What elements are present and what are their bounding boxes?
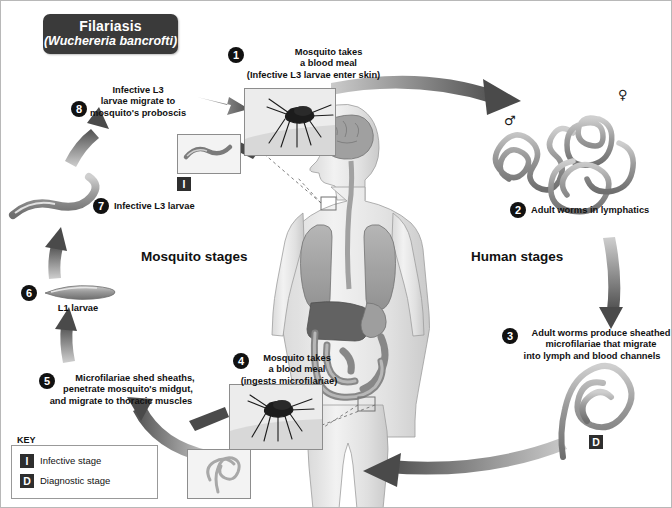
step-5-line-2: penetrate mosquito's midgut, (31, 384, 211, 395)
mosquito-stages-label: Mosquito stages (141, 249, 248, 264)
step-8-line-2: larvae migrate to (61, 96, 191, 107)
inset-l3-larvae (177, 134, 241, 174)
step-3-caption: Adult worms produce sheathed microfilari… (511, 328, 672, 362)
step-7-caption: Infective L3 larvae (114, 201, 195, 212)
step-3-line-3: into lymph and blood channels (511, 351, 672, 362)
disease-name: Filariasis (43, 14, 178, 34)
step-5-caption: Microfilariae shed sheaths, penetrate mo… (31, 373, 211, 407)
key-row-diagnostic: DDiagnostic stage (20, 473, 110, 489)
mosquito-photo-art (245, 89, 335, 155)
key-box: IInfective stage DDiagnostic stage (11, 445, 158, 499)
inset-mosquito-bite-infective (244, 88, 336, 156)
step-4-line-3: (ingests microfilariae) (217, 376, 347, 387)
step-4-caption: Mosquito takes a blood meal (ingests mic… (217, 353, 347, 387)
step-8-caption: Infective L3 larvae migrate to mosquito'… (61, 85, 191, 119)
key-infective-badge: I (20, 454, 34, 468)
human-stages-label: Human stages (471, 249, 563, 264)
l1-larva (45, 286, 115, 300)
step-8-line-3: mosquito's proboscis (61, 108, 191, 119)
step-6-line-1: L1 larvae (41, 303, 115, 314)
step-8-line-1: Infective L3 (61, 85, 191, 96)
inset-microfilaria (187, 449, 251, 499)
adult-worms (495, 118, 633, 212)
step-2-caption: Adult worms in lymphatics (531, 205, 649, 216)
diagnostic-stage-badge: D (589, 435, 603, 449)
mosquito-photo-art-2 (230, 385, 322, 449)
key-row-infective: IInfective stage (20, 453, 101, 469)
infective-stage-badge: I (177, 177, 191, 191)
key-infective-label: Infective stage (40, 455, 101, 466)
step-4-line-1: Mosquito takes (217, 353, 347, 364)
step-7-line-1: Infective L3 larvae (114, 201, 195, 212)
step-6-number: 6 (21, 285, 37, 301)
title-banner: Filariasis (Wuchereria bancrofti) (43, 14, 178, 54)
male-symbol: ♂ (504, 113, 516, 128)
l3-larvae-art (178, 135, 240, 173)
key-diagnostic-badge: D (20, 474, 34, 488)
step-7-number: 7 (93, 198, 109, 214)
step-3-line-2: microfilariae that migrate (511, 339, 672, 350)
step-1-line-2: a blood meal (201, 58, 426, 69)
l3-larva-large (13, 177, 96, 215)
step-1-line-1: Mosquito takes (201, 47, 426, 58)
life-cycle-diagram: Filariasis (Wuchereria bancrofti) (0, 0, 672, 508)
key-diagnostic-label: Diagnostic stage (40, 475, 110, 486)
step-1-line-3: (Infective L3 larvae enter skin) (201, 70, 426, 81)
species-name: (Wuchereria bancrofti) (43, 34, 178, 49)
microfilaria-art (188, 450, 250, 498)
female-symbol: ♀ (618, 87, 628, 102)
step-2-line-1: Adult worms in lymphatics (531, 205, 649, 216)
step-4-line-2: a blood meal (217, 364, 347, 375)
key-title: KEY (15, 435, 38, 445)
step-3-line-1: Adult worms produce sheathed (511, 328, 672, 339)
inset-mosquito-bite-ingest (229, 384, 323, 450)
step-5-line-3: and migrate to thoracic muscles (31, 396, 211, 407)
step-1-caption: Mosquito takes a blood meal (Infective L… (201, 47, 426, 81)
step-2-number: 2 (510, 202, 526, 218)
step-6-caption: L1 larvae (41, 303, 115, 314)
step-5-line-1: Microfilariae shed sheaths, (31, 373, 211, 384)
